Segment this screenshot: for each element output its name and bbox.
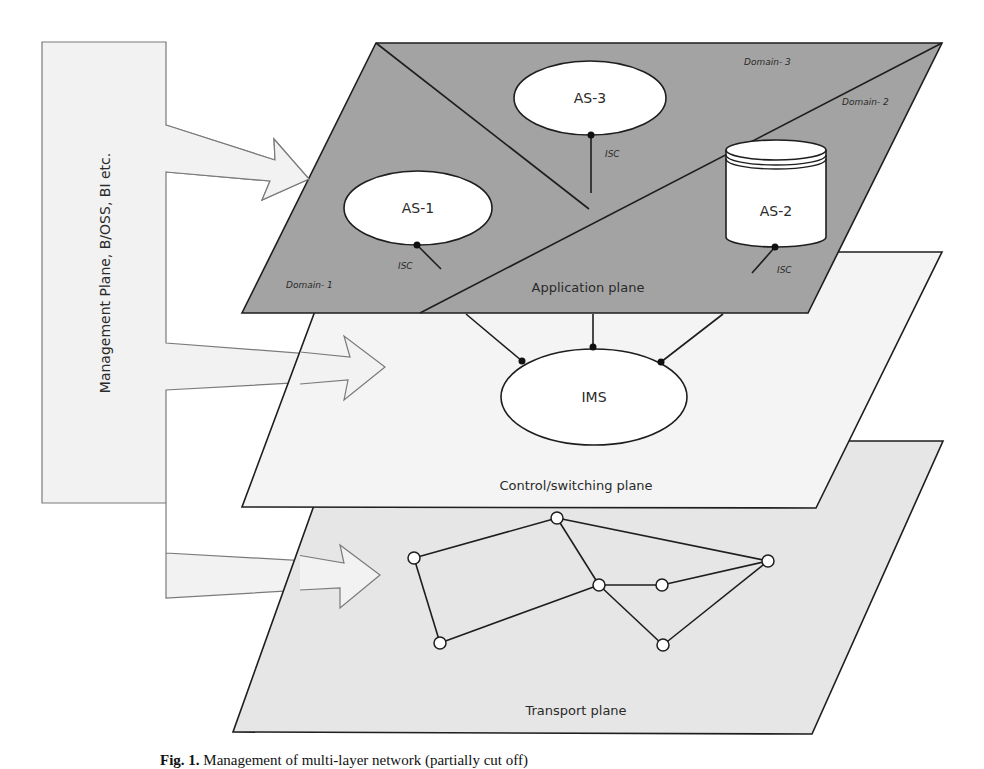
network-node[interactable] (656, 579, 668, 591)
as3-label: AS-3 (574, 90, 606, 106)
isc-label-as1: ISC (398, 261, 413, 271)
arrow-to-application-plane (166, 125, 309, 200)
control-plane-label: Control/switching plane (499, 478, 652, 493)
isc-port-dot (588, 132, 595, 139)
isc-label-as3: ISC (605, 149, 620, 159)
network-node[interactable] (434, 637, 446, 649)
isc-label-as2: ISC (777, 265, 792, 275)
management-plane-label: Management Plane, B/OSS, BI etc. (97, 153, 113, 393)
domain-2-label: Domain- 2 (842, 97, 889, 107)
network-node[interactable] (551, 512, 563, 524)
isc-port-dot (772, 244, 779, 251)
ims-port-dot (590, 344, 597, 351)
caption-prefix: Fig. 1. (160, 752, 200, 768)
domain-3-label: Domain- 3 (744, 57, 791, 67)
network-node[interactable] (762, 555, 774, 567)
transport-plane-label: Transport plane (524, 703, 626, 718)
network-node[interactable] (657, 639, 669, 651)
network-node[interactable] (593, 579, 605, 591)
ims-port-dot (658, 359, 665, 366)
ims-port-dot (519, 358, 526, 365)
caption-text: Management of multi-layer network (parti… (203, 752, 528, 768)
domain-1-label: Domain- 1 (286, 280, 333, 290)
figure-caption: Fig. 1. Management of multi-layer networ… (160, 752, 528, 769)
network-node[interactable] (408, 552, 420, 564)
ims-label: IMS (581, 389, 606, 405)
isc-port-dot (414, 242, 421, 249)
as2-label: AS-2 (760, 203, 792, 219)
as1-label: AS-1 (402, 200, 434, 216)
application-plane-label: Application plane (532, 280, 645, 295)
